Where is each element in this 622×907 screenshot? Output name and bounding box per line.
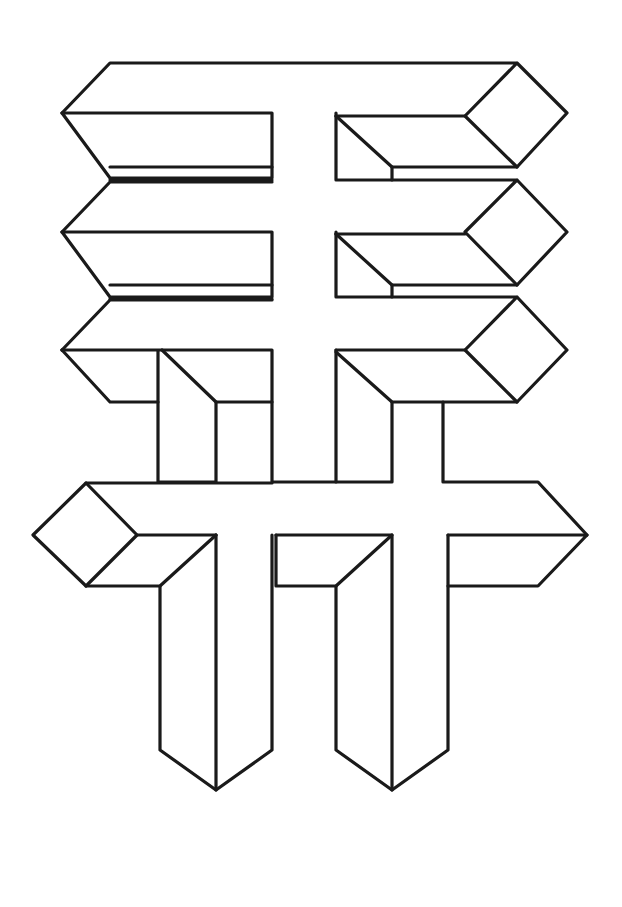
figure-line-7 bbox=[62, 182, 272, 232]
figure-line-24 bbox=[443, 402, 587, 535]
figure-line-16 bbox=[62, 350, 272, 482]
figure-line-17 bbox=[62, 350, 158, 402]
figure-line-15 bbox=[62, 300, 272, 350]
figure-line-3 bbox=[336, 113, 517, 180]
figure-line-4 bbox=[336, 116, 392, 167]
figure-line-18 bbox=[162, 350, 216, 402]
impossible-figure-canvas bbox=[0, 0, 622, 907]
figure-line-11 bbox=[336, 232, 517, 297]
figure-line-0 bbox=[62, 63, 567, 167]
figure-line-34 bbox=[448, 535, 587, 586]
figure-line-32 bbox=[276, 535, 392, 586]
figure-line-26 bbox=[33, 483, 137, 586]
figure-line-23 bbox=[336, 402, 392, 482]
figure-line-31 bbox=[276, 535, 392, 790]
figure-line-28 bbox=[86, 535, 216, 586]
figure-line-12 bbox=[336, 234, 392, 285]
figure-line-8 bbox=[62, 232, 272, 297]
impossible-figure-drawing bbox=[0, 0, 622, 907]
figure-line-19 bbox=[272, 350, 336, 482]
